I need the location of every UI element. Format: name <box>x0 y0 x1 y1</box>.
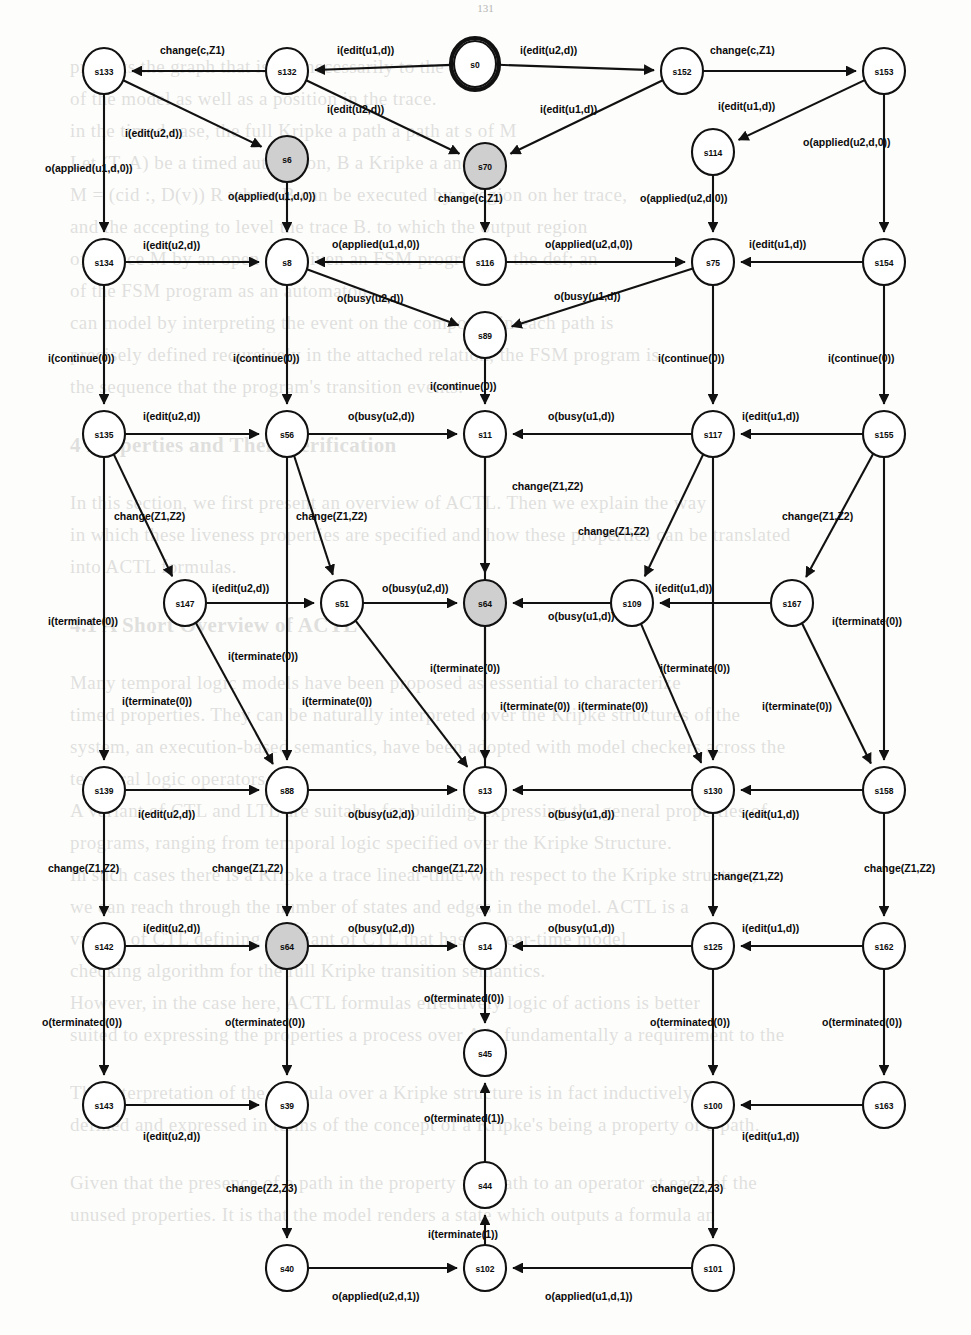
state-label: s130 <box>704 786 723 796</box>
state-node[interactable]: s40 <box>266 1245 308 1291</box>
state-node[interactable]: s51 <box>321 580 363 626</box>
state-node[interactable]: s0 <box>451 38 499 90</box>
state-node[interactable]: s88 <box>266 767 308 813</box>
state-label: s0 <box>470 60 480 70</box>
state-label: s6 <box>282 155 292 165</box>
transition-label: o(applied(u1,d,0)) <box>228 190 316 202</box>
state-node[interactable]: s8 <box>266 239 308 285</box>
state-node[interactable]: s11 <box>464 411 506 457</box>
state-label: s14 <box>478 942 492 952</box>
state-node[interactable]: s102 <box>464 1245 506 1291</box>
state-node[interactable]: s153 <box>863 48 905 94</box>
transition-label: i(terminate(0)) <box>660 662 730 674</box>
transition-label: i(edit(u1,d)) <box>655 582 712 594</box>
state-node[interactable]: s167 <box>771 580 813 626</box>
transition-label: change(Z2,Z3) <box>226 1182 297 1194</box>
transition-label: i(edit(u2,d)) <box>520 44 577 56</box>
state-node[interactable]: s125 <box>692 923 734 969</box>
state-label: s89 <box>478 331 492 341</box>
state-label: s40 <box>280 1264 294 1274</box>
state-label: s51 <box>335 599 349 609</box>
transition-label: change(Z1,Z2) <box>212 862 283 874</box>
transition-label: change(c,Z1) <box>160 44 225 56</box>
state-node[interactable]: s64 <box>464 580 506 626</box>
state-node[interactable]: s143 <box>83 1082 125 1128</box>
state-label: s116 <box>476 258 495 268</box>
state-node[interactable]: s163 <box>863 1082 905 1128</box>
state-node[interactable]: s75 <box>692 239 734 285</box>
state-node[interactable]: s117 <box>692 411 734 457</box>
state-node[interactable]: s147 <box>164 580 206 626</box>
state-node[interactable]: s130 <box>692 767 734 813</box>
transition-label: i(edit(u2,d)) <box>138 808 195 820</box>
transition-label: o(busy(u2,d)) <box>348 808 415 820</box>
transition-label: i(terminate(0)) <box>48 615 118 627</box>
transition-label: o(busy(u1,d)) <box>548 808 615 820</box>
state-node[interactable]: s70 <box>464 143 506 189</box>
state-label: s64 <box>280 942 294 952</box>
state-node[interactable]: s142 <box>83 923 125 969</box>
transition-label: o(terminated(0)) <box>225 1016 305 1028</box>
state-node[interactable]: s14 <box>464 923 506 969</box>
state-label: s102 <box>476 1264 495 1274</box>
transition-label: i(continue(0)) <box>48 352 115 364</box>
state-label: s139 <box>95 786 114 796</box>
state-node[interactable]: s132 <box>266 48 308 94</box>
transition-label: i(edit(u2,d)) <box>143 1130 200 1142</box>
transition-label: o(busy(u2,d)) <box>348 410 415 422</box>
state-label: s70 <box>478 162 492 172</box>
transition-label: change(c,Z1) <box>438 192 503 204</box>
transition-label: i(terminate(1)) <box>428 1228 498 1240</box>
transition-label: o(busy(u1,d)) <box>548 410 615 422</box>
state-label: s132 <box>278 67 297 77</box>
state-label: s114 <box>704 148 723 158</box>
state-node[interactable]: s45 <box>464 1030 506 1076</box>
state-node[interactable]: s134 <box>83 239 125 285</box>
state-node[interactable]: s114 <box>692 129 734 175</box>
transition-label: o(applied(u2,d,0)) <box>640 192 728 204</box>
state-node[interactable]: s133 <box>83 48 125 94</box>
state-node[interactable]: s39 <box>266 1082 308 1128</box>
transition-label: i(terminate(0)) <box>832 615 902 627</box>
state-node[interactable]: s100 <box>692 1082 734 1128</box>
transition-label: i(edit(u2,d)) <box>143 410 200 422</box>
state-label: s8 <box>282 258 292 268</box>
transition-label: i(terminate(0)) <box>578 700 648 712</box>
transition-label: change(Z1,Z2) <box>578 525 649 537</box>
state-node[interactable]: s89 <box>464 312 506 358</box>
transition-edge <box>315 65 452 70</box>
transition-label: change(Z1,Z2) <box>412 862 483 874</box>
state-node[interactable]: s13 <box>464 767 506 813</box>
state-label: s133 <box>95 67 114 77</box>
state-node[interactable]: s56 <box>266 411 308 457</box>
state-node[interactable]: s44 <box>464 1162 506 1208</box>
state-node[interactable]: s152 <box>661 48 703 94</box>
state-node[interactable]: s101 <box>692 1245 734 1291</box>
transition-label: o(terminated(0)) <box>822 1016 902 1028</box>
transition-label: o(busy(u1,d)) <box>548 610 615 622</box>
state-node[interactable]: s109 <box>611 580 653 626</box>
state-node[interactable]: s155 <box>863 411 905 457</box>
page: 131 presents the graph that is not neces… <box>0 0 971 1335</box>
state-node[interactable]: s162 <box>863 923 905 969</box>
state-node[interactable]: s158 <box>863 767 905 813</box>
transition-label: o(applied(u2,d,0)) <box>803 136 891 148</box>
transition-label: i(terminate(0)) <box>500 700 570 712</box>
transition-label: o(applied(u2,d,1)) <box>332 1290 420 1302</box>
transition-label: i(edit(u1,d)) <box>742 1130 799 1142</box>
state-node[interactable]: s64 <box>266 923 308 969</box>
transition-edge <box>196 623 273 764</box>
state-node[interactable]: s116 <box>464 239 506 285</box>
state-label: s154 <box>875 258 894 268</box>
transition-label: o(busy(u2,d)) <box>337 292 404 304</box>
transition-label: i(edit(u1,d)) <box>742 808 799 820</box>
state-node[interactable]: s135 <box>83 411 125 457</box>
transition-label: o(busy(u2,d)) <box>348 922 415 934</box>
transition-edge <box>356 621 468 767</box>
transition-label: o(terminated(0)) <box>42 1016 122 1028</box>
state-label: s44 <box>478 1181 492 1191</box>
state-node[interactable]: s6 <box>266 136 308 182</box>
state-node[interactable]: s154 <box>863 239 905 285</box>
state-label: s152 <box>673 67 692 77</box>
state-node[interactable]: s139 <box>83 767 125 813</box>
